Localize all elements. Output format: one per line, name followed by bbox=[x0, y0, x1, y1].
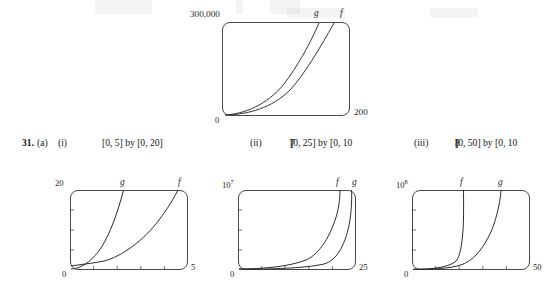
item-roman-ii: (ii) bbox=[250, 138, 262, 148]
window-spec-iii-prefix: [0, 50] by [0, 10 bbox=[455, 138, 517, 148]
curve-f-i bbox=[71, 190, 178, 266]
window-spec-ii-prefix: [0, 25] by [0, 10 bbox=[290, 138, 352, 148]
curve-f-ii bbox=[239, 190, 340, 269]
curve-label-f-top: f bbox=[340, 9, 343, 18]
tick-marks-iii bbox=[412, 210, 506, 270]
y-max-label-top: 300,000 bbox=[190, 10, 220, 19]
y-max-label-ii: 107 bbox=[222, 179, 234, 189]
y-min-label-ii: 0 bbox=[230, 270, 234, 279]
scan-artifact-top-2 bbox=[0, 8, 558, 18]
y-max-label-ii-base: 10 bbox=[222, 180, 231, 190]
x-max-label-iii: 50 bbox=[533, 263, 542, 272]
item-roman-iii: (iii) bbox=[414, 138, 428, 148]
tick-marks-ii bbox=[238, 210, 332, 270]
y-min-label-top: 0 bbox=[215, 116, 219, 125]
y-max-label-iii-exponent: 8 bbox=[405, 178, 408, 185]
y-min-label-i: 0 bbox=[62, 270, 66, 279]
curve-g-top bbox=[225, 23, 319, 115]
exercise-part-a: (a) bbox=[37, 138, 48, 148]
y-min-label-iii: 0 bbox=[404, 270, 408, 279]
curve-label-f-ii: f bbox=[336, 178, 339, 187]
curve-label-g-iii: g bbox=[498, 178, 503, 187]
curve-g-iii bbox=[413, 190, 501, 269]
textbook-page: 300,000 0 200 g f 31. (a) (i) [0, 5] by … bbox=[0, 0, 558, 300]
graph-plot-ii bbox=[238, 190, 356, 270]
scan-artifact-top bbox=[0, 0, 558, 14]
exercise-text-row: 31. (a) (i) [0, 5] by [0, 20] (ii) [0, 2… bbox=[0, 136, 558, 156]
curve-g-ii bbox=[239, 190, 352, 269]
curve-label-f-iii: f bbox=[460, 178, 463, 187]
graph-plot-iii bbox=[412, 190, 530, 270]
tick-marks-i bbox=[70, 210, 164, 270]
viewing-window-iii: 108 0 50 f g bbox=[412, 190, 530, 270]
exercise-number: 31. bbox=[22, 138, 34, 148]
curve-f-top bbox=[225, 23, 334, 115]
x-max-label-i: 5 bbox=[191, 263, 195, 272]
y-max-label-i: 20 bbox=[55, 179, 64, 188]
graph-plot-i bbox=[70, 190, 188, 270]
x-max-label-top: 200 bbox=[354, 108, 368, 117]
item-roman-i: (i) bbox=[58, 138, 67, 148]
curve-label-g-ii: g bbox=[352, 178, 357, 187]
graph-plot-top bbox=[222, 22, 350, 116]
viewing-window-ii: 107 0 25 f g bbox=[238, 190, 356, 270]
window-spec-i: [0, 5] by [0, 20] bbox=[102, 138, 163, 148]
y-max-label-iii: 108 bbox=[396, 179, 408, 189]
top-viewing-window: 300,000 0 200 g f bbox=[222, 22, 350, 116]
y-max-label-iii-base: 10 bbox=[396, 180, 405, 190]
window-spec-iii-suffix: ] bbox=[455, 138, 458, 148]
curve-label-g-i: g bbox=[120, 178, 125, 187]
viewing-window-i: 20 0 5 g f bbox=[70, 190, 188, 270]
curve-f-iii bbox=[413, 190, 464, 269]
curve-label-g-top: g bbox=[314, 9, 319, 18]
curve-label-f-i: f bbox=[178, 178, 181, 187]
y-max-label-ii-exponent: 7 bbox=[231, 178, 234, 185]
x-max-label-ii: 25 bbox=[359, 263, 368, 272]
window-spec-ii-suffix: ] bbox=[290, 138, 293, 148]
